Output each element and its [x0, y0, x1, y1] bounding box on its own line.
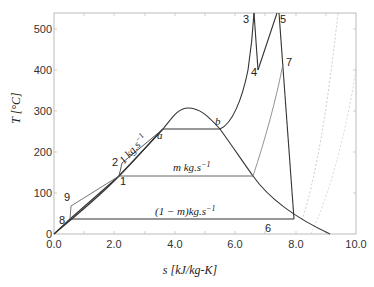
label-point-1: 1 — [120, 175, 126, 187]
superheat-line-b-3 — [220, 13, 254, 129]
label-point-3: 3 — [243, 13, 249, 25]
dashed-isobar-a — [302, 13, 338, 220]
label-point-a: a — [157, 129, 163, 141]
y-tick-500: 500 — [34, 23, 52, 35]
x-tick-8: 8.0 — [288, 238, 303, 250]
x-ticks — [84, 13, 326, 234]
y-tick-300: 300 — [34, 105, 52, 117]
x-tick-4: 4.0 — [167, 238, 182, 250]
y-tick-200: 200 — [34, 146, 52, 158]
label-point-7: 7 — [286, 56, 292, 68]
expansion-5-6 — [279, 13, 294, 219]
label-point-8: 8 — [59, 214, 65, 226]
flow-label-1-minus-m: (1 − m)kg.s−1 — [155, 204, 216, 218]
extraction-curve-7 — [253, 64, 283, 176]
x-tick-2: 2.0 — [106, 238, 121, 250]
label-point-9: 9 — [64, 191, 70, 203]
flow-label-1kg: 1 kg.s−1 — [116, 131, 149, 166]
svg-text:1 kg.s−1: 1 kg.s−1 — [116, 131, 149, 166]
x-tick-6: 6.0 — [227, 238, 242, 250]
label-point-4: 4 — [251, 66, 257, 78]
y-tick-0: 0 — [46, 228, 52, 240]
label-point-b: b — [215, 115, 221, 127]
x-axis-label: s [kJ/kg-K] — [163, 263, 218, 277]
x-tick-10: 10.0 — [345, 238, 366, 250]
y-tick-400: 400 — [34, 64, 52, 76]
label-point-5: 5 — [280, 13, 286, 25]
y-axis-label: T [°C] — [9, 92, 23, 124]
y-tick-100: 100 — [34, 187, 52, 199]
plot-frame — [54, 13, 356, 234]
ts-diagram: 0.0 2.0 4.0 6.0 8.0 10.0 0 100 200 300 4… — [0, 0, 374, 287]
dashed-isobar-b — [311, 70, 356, 234]
label-point-6: 6 — [265, 222, 271, 234]
reheat-4-5 — [258, 13, 277, 70]
flow-label-m: m kg.s−1 — [173, 160, 211, 173]
expansion-3-4 — [254, 13, 258, 70]
